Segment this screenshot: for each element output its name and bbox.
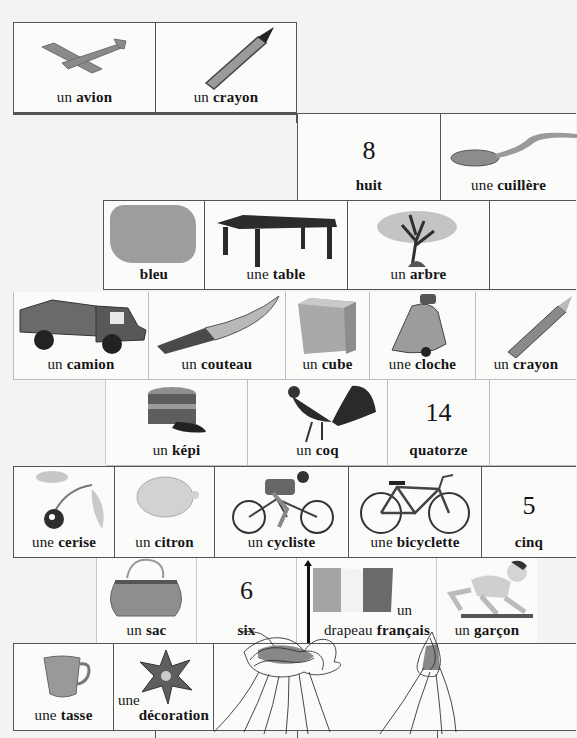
bicycle-icon <box>355 471 475 535</box>
divider <box>13 113 298 115</box>
card-crayon[interactable]: un crayon <box>156 22 297 113</box>
card-cinq[interactable]: 5 cinq <box>482 466 576 558</box>
card-crayon-2[interactable]: un crayon <box>476 292 576 380</box>
card-bicyclette[interactable]: une bicyclette <box>349 466 482 558</box>
card-kepi[interactable]: un képi <box>106 380 248 466</box>
numeral: 14 <box>388 398 489 428</box>
airplane-icon <box>32 33 132 83</box>
card-label: huit <box>298 177 440 194</box>
card-label: un avion <box>14 89 155 106</box>
spoon-icon <box>449 128 577 168</box>
card-huit[interactable]: 8 huit <box>297 113 441 201</box>
card-quatorze[interactable]: 14 quatorze <box>388 380 490 466</box>
knife-icon <box>155 294 283 356</box>
card-label: quatorze <box>388 442 489 459</box>
card-label: une tasse <box>14 707 113 724</box>
card-avion[interactable]: un avion <box>13 22 156 113</box>
card-label: cinq <box>482 534 576 551</box>
card-cerise[interactable]: une cerise <box>13 466 115 558</box>
table-icon <box>215 213 340 269</box>
card-tasse[interactable]: une tasse <box>13 643 114 731</box>
divider <box>297 731 298 738</box>
card-label: un cube <box>286 356 369 373</box>
card-arbre[interactable]: un arbre <box>348 200 490 290</box>
divider <box>155 731 156 738</box>
teacup-icon <box>42 654 94 700</box>
cyclist-icon <box>227 469 339 535</box>
cube-icon <box>296 298 358 356</box>
card-cycliste[interactable]: un cycliste <box>215 466 349 558</box>
card-decoration[interactable]: une décoration <box>114 643 214 731</box>
flag-article: un <box>397 602 412 619</box>
card-label: un képi <box>106 442 247 459</box>
card-camion[interactable]: un camion <box>13 292 149 380</box>
card-table[interactable]: une table <box>205 200 348 290</box>
card-label: une cloche <box>370 356 475 373</box>
lemon-icon <box>135 475 201 519</box>
card-label: un citron <box>115 534 214 551</box>
card-label: un sac <box>97 622 196 639</box>
blue-swatch-icon <box>110 205 196 263</box>
card-cuillere[interactable]: une cuillère <box>441 113 576 201</box>
numeral: 8 <box>298 136 440 166</box>
card-label: un coq <box>248 442 387 459</box>
bell-icon <box>386 294 456 358</box>
card-label: un camion <box>14 356 148 373</box>
kepi-cap-icon <box>146 386 208 436</box>
handbag-icon <box>105 558 187 618</box>
card-sac[interactable]: un sac <box>96 558 197 646</box>
pen-scribble-icon <box>204 622 464 734</box>
card-label: décoration <box>114 707 213 724</box>
card-label: une cuillère <box>441 177 576 194</box>
card-label: une cerise <box>14 534 114 551</box>
pencil-icon <box>504 296 574 358</box>
card-label: un crayon <box>156 89 296 106</box>
card-label: un couteau <box>149 356 285 373</box>
numeral: 5 <box>482 491 576 521</box>
card-cloche[interactable]: une cloche <box>370 292 476 380</box>
cherry-icon <box>32 469 112 533</box>
divider <box>437 731 438 738</box>
boy-crawling-icon <box>441 560 535 622</box>
pencil-icon <box>196 25 276 90</box>
card-label: bleu <box>104 266 204 283</box>
card-couteau[interactable]: un couteau <box>149 292 286 380</box>
card-label: un arbre <box>348 266 489 283</box>
tree-icon <box>372 205 462 269</box>
card-blank <box>490 200 576 290</box>
card-label: un cycliste <box>215 534 348 551</box>
card-label: une table <box>205 266 347 283</box>
card-coq[interactable]: un coq <box>248 380 388 466</box>
medal-cross-icon <box>138 646 194 708</box>
card-bleu[interactable]: bleu <box>103 200 205 290</box>
rooster-icon <box>282 382 378 444</box>
numeral: 6 <box>197 576 296 606</box>
scribble-area <box>214 643 576 731</box>
truck-icon <box>16 296 148 356</box>
card-cube[interactable]: un cube <box>286 292 370 380</box>
card-label: un crayon <box>476 356 576 373</box>
card-label: une bicyclette <box>349 534 481 551</box>
card-citron[interactable]: un citron <box>115 466 215 558</box>
card-blank <box>490 380 576 466</box>
